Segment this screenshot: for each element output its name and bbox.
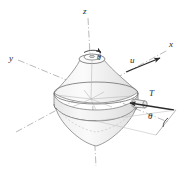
T-vector-label: T <box>149 89 154 98</box>
axis-label-x: x <box>169 40 173 49</box>
axis-label-y: y <box>9 54 13 63</box>
theta-reference-ray <box>156 110 176 135</box>
figure-canvas: z x y θ u T θ <box>0 0 189 170</box>
spinning-top-diagram <box>0 0 189 170</box>
stem-hub <box>89 55 94 57</box>
theta-angle-label: θ <box>148 112 152 121</box>
theta-dot-label: θ <box>97 54 101 62</box>
u-vector-label: u <box>130 56 135 65</box>
axis-label-z: z <box>83 7 87 16</box>
